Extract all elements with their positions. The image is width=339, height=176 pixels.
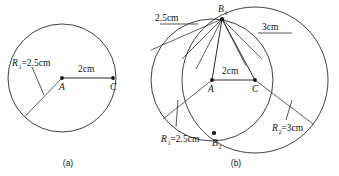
panel-a-radius-label-value: =2.5cm — [22, 58, 51, 68]
panel-b-arc-right-ray — [222, 19, 262, 59]
panel-b-point-B2-dot — [212, 131, 216, 135]
panel-b-point-B1-label: B — [218, 4, 224, 14]
panel-a-point-A-label: A — [58, 82, 65, 92]
panel-a-point-A-dot — [60, 76, 64, 80]
figure-svg: R 1 =2.5cm 2cm A C (a) — [0, 0, 339, 176]
panel-b-point-B1-dot — [220, 17, 224, 21]
panel-b-arc-right-label: 3cm — [262, 22, 279, 32]
panel-b-radius2-leader — [286, 100, 292, 120]
panel-a-radius-label-R: R — [11, 58, 18, 68]
panel-b-distance-label: 2cm — [222, 66, 239, 76]
panel-a: R 1 =2.5cm 2cm A C (a) — [8, 24, 117, 168]
panel-b-ray-inner-right — [222, 19, 246, 66]
geometry-figure: R 1 =2.5cm 2cm A C (a) — [0, 0, 339, 176]
panel-b-radius2-label-R: R — [271, 123, 278, 133]
panel-a-radius-leader — [32, 67, 44, 95]
panel-b-point-B2-sub: 2 — [219, 143, 222, 150]
panel-b: 2.5cm 3cm 2cm B 1 B 2 A C R 1 =2.5cm R 2… — [151, 4, 328, 168]
panel-a-point-C-label: C — [110, 82, 117, 92]
panel-a-distance-label: 2cm — [78, 64, 95, 74]
panel-a-caption: (a) — [63, 158, 74, 168]
panel-b-radius2-label-value: =3cm — [282, 123, 304, 133]
panel-b-arc-left-label: 2.5cm — [155, 13, 179, 23]
panel-a-point-C-dot — [111, 76, 115, 80]
panel-b-radius1-label-value: =2.5cm — [171, 134, 200, 144]
panel-b-point-B2-label: B — [212, 138, 218, 148]
panel-a-radius-line — [25, 78, 63, 117]
panel-b-caption: (b) — [231, 158, 242, 168]
panel-b-point-A-label: A — [207, 84, 214, 94]
panel-b-radius1-label-R: R — [160, 134, 167, 144]
panel-b-point-C-label: C — [252, 84, 259, 94]
panel-b-radius1-leader — [176, 100, 178, 127]
panel-b-construction-line-lower-right — [255, 80, 313, 124]
panel-b-point-A-dot — [210, 78, 214, 82]
panel-b-point-B1-sub: 1 — [225, 9, 228, 16]
panel-b-construction-line-lower-left — [163, 80, 212, 119]
panel-b-point-C-dot — [253, 78, 257, 82]
